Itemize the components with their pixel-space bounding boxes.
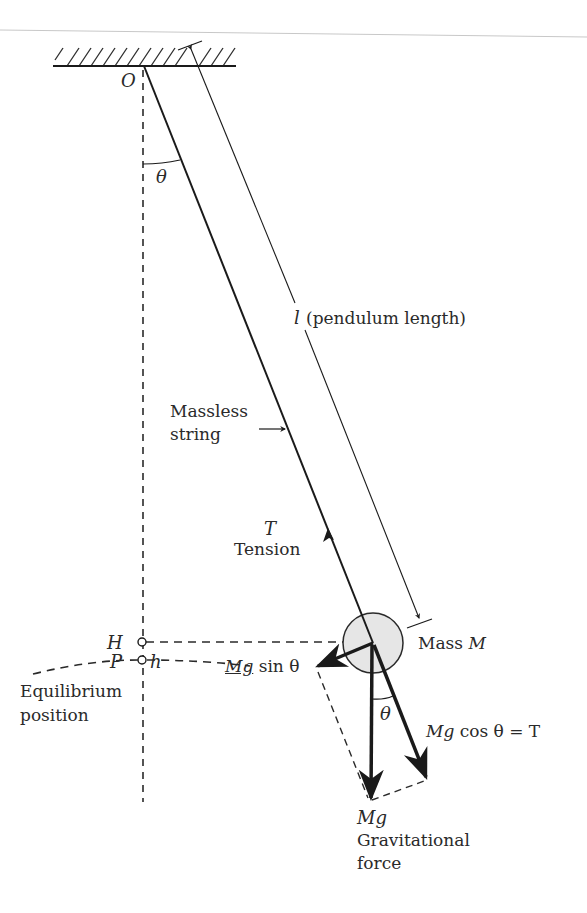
length-dimension-line-upper	[191, 49, 295, 303]
length-symbol: l	[294, 309, 300, 327]
tension-symbol: T	[264, 520, 276, 538]
page-rule-line	[0, 30, 587, 37]
length-tick-bottom	[407, 619, 432, 628]
point-p-label: P	[110, 653, 122, 671]
gravity-label-line1: Gravitational	[357, 832, 470, 849]
equilibrium-label-line1: Equilibrium	[20, 683, 122, 700]
point-h-marker	[138, 638, 146, 646]
radial-force-label: Mg cos θ = T	[426, 723, 540, 740]
pivot-label: O	[121, 72, 136, 90]
gravity-vector	[371, 645, 372, 798]
length-dimension-line-lower	[305, 330, 419, 618]
height-symbol: h	[150, 653, 162, 671]
angle-label-bottom: θ	[380, 705, 391, 723]
angle-label-top: θ	[156, 168, 167, 186]
equilibrium-label-line2: position	[20, 707, 89, 724]
length-tick-top	[178, 41, 202, 50]
length-label: (pendulum length)	[306, 310, 466, 327]
point-h-label: H	[107, 634, 123, 652]
resolution-dash-bottom	[372, 780, 427, 800]
string-label-line1: Massless	[170, 403, 248, 420]
angle-arc-bottom	[372, 696, 393, 699]
point-p-marker	[138, 656, 146, 664]
angle-arc-top	[143, 160, 180, 164]
tension-label: Tension	[234, 541, 300, 558]
ceiling-hatch	[55, 48, 235, 66]
mass-label: Mass M	[418, 635, 486, 652]
diagram-canvas	[0, 0, 587, 913]
gravity-symbol: Mg	[357, 809, 387, 827]
pendulum-diagram: O θ l (pendulum length) Massless string …	[0, 0, 587, 913]
tangential-force-label: Mg sin θ	[225, 658, 299, 675]
string-label-line2: string	[170, 426, 221, 443]
gravity-label-line2: force	[357, 855, 401, 872]
resolution-dash-left	[318, 672, 368, 798]
